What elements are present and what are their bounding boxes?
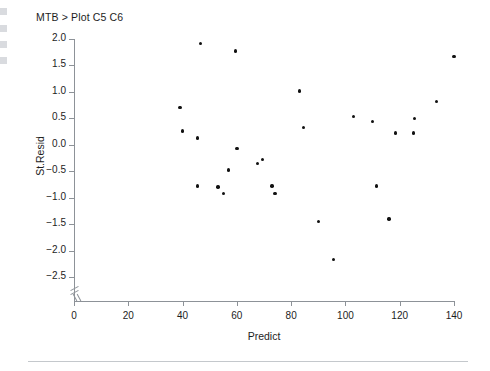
data-point xyxy=(371,120,374,123)
y-tick-mark xyxy=(69,92,74,93)
x-tick-mark xyxy=(454,301,455,306)
data-point xyxy=(216,185,219,188)
y-tick-mark xyxy=(69,39,74,40)
x-tick-label: 80 xyxy=(271,310,311,321)
y-tick-mark xyxy=(69,171,74,172)
x-axis-break-icon xyxy=(71,292,80,302)
y-tick-mark xyxy=(69,251,74,252)
data-point xyxy=(452,55,455,58)
x-tick-mark xyxy=(400,301,401,306)
data-point xyxy=(332,258,335,261)
y-tick-label: 2.0 xyxy=(34,32,66,43)
data-point xyxy=(435,100,438,103)
data-point xyxy=(196,184,199,187)
data-point xyxy=(317,220,320,223)
y-tick-mark xyxy=(69,65,74,66)
x-axis-label: Predict xyxy=(174,330,354,342)
x-tick-mark xyxy=(345,301,346,306)
data-point xyxy=(413,117,416,120)
x-tick-label: 20 xyxy=(108,310,148,321)
data-point xyxy=(234,49,237,52)
data-point xyxy=(222,192,225,195)
y-tick-mark xyxy=(69,198,74,199)
y-tick-mark xyxy=(69,118,74,119)
y-tick-label: 1.0 xyxy=(34,85,66,96)
data-point xyxy=(298,89,301,92)
x-tick-label: 0 xyxy=(54,310,94,321)
x-tick-label: 100 xyxy=(325,310,365,321)
data-point xyxy=(375,184,378,187)
data-point xyxy=(196,136,199,139)
x-axis-line xyxy=(74,301,454,302)
data-point xyxy=(256,162,259,165)
x-tick-mark xyxy=(183,301,184,306)
x-tick-mark xyxy=(128,301,129,306)
y-axis-label: St.Resid xyxy=(34,111,46,201)
data-point xyxy=(302,126,305,129)
y-tick-mark xyxy=(69,224,74,225)
y-tick-mark xyxy=(69,145,74,146)
data-point xyxy=(394,131,397,134)
data-point xyxy=(387,217,390,220)
x-tick-mark xyxy=(237,301,238,306)
data-point xyxy=(273,192,276,195)
data-point xyxy=(235,147,238,150)
x-tick-label: 120 xyxy=(380,310,420,321)
y-tick-label: −1.5 xyxy=(34,217,66,228)
data-point xyxy=(181,129,184,132)
y-tick-label: −2.0 xyxy=(34,244,66,255)
data-point xyxy=(352,115,355,118)
scatter-plot-figure: MTB > Plot C5 C6 2.01.51.00.50.0−0.5−1.0… xyxy=(0,0,490,355)
data-point xyxy=(227,168,230,171)
x-tick-label: 60 xyxy=(217,310,257,321)
y-tick-label: 1.5 xyxy=(34,58,66,69)
y-tick-mark xyxy=(69,277,74,278)
data-point xyxy=(270,184,273,187)
y-axis-line xyxy=(74,39,75,301)
data-point xyxy=(199,42,202,45)
x-tick-mark xyxy=(291,301,292,306)
x-tick-label: 40 xyxy=(163,310,203,321)
y-tick-label: −2.5 xyxy=(34,270,66,281)
data-point xyxy=(412,131,415,134)
data-point xyxy=(178,106,181,109)
x-tick-label: 140 xyxy=(434,310,474,321)
data-point xyxy=(261,158,264,161)
footer-divider xyxy=(28,361,468,362)
